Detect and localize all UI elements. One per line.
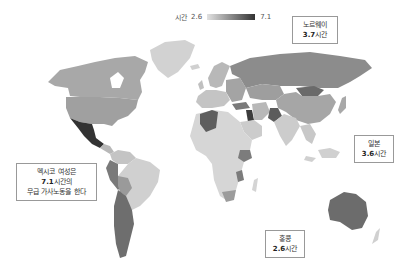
callout-hongkong-value: 2.6 [273, 245, 285, 253]
callout-mexico-line3: 무급 가사노동을 한다 [21, 187, 92, 197]
callout-norway-country: 노르웨이 [297, 20, 333, 30]
region-turkey [232, 102, 250, 110]
region-south-africa [222, 190, 236, 202]
world-map [0, 0, 414, 273]
callout-norway: 노르웨이 3.7시간 [292, 16, 338, 44]
callout-mexico-line1: 멕시코 여성은 [21, 167, 92, 177]
region-europe [196, 90, 230, 108]
callout-hongkong: 홍콩 2.6시간 [265, 230, 305, 258]
legend-label: 시간 [175, 12, 187, 22]
legend-min: 2.6 [191, 13, 202, 21]
region-canada [48, 56, 148, 100]
region-japan [338, 96, 346, 114]
legend-gradient-bar [207, 14, 255, 20]
legend-max: 7.1 [260, 13, 271, 21]
color-legend: 시간 2.6 7.1 [175, 10, 271, 24]
callout-japan-country: 일본 [359, 139, 389, 149]
callout-japan: 일본 3.6시간 [354, 135, 394, 163]
callout-mexico: 멕시코 여성은 7.1시간의 무급 가사노동을 한다 [16, 163, 97, 201]
region-greenland [150, 40, 195, 78]
region-russia [230, 52, 372, 88]
callout-hongkong-country: 홍콩 [270, 234, 300, 244]
callout-mexico-value: 7.1 [41, 178, 53, 186]
region-australia [328, 192, 368, 230]
callout-norway-value: 3.7 [303, 31, 315, 39]
callout-japan-value: 3.6 [362, 150, 374, 158]
